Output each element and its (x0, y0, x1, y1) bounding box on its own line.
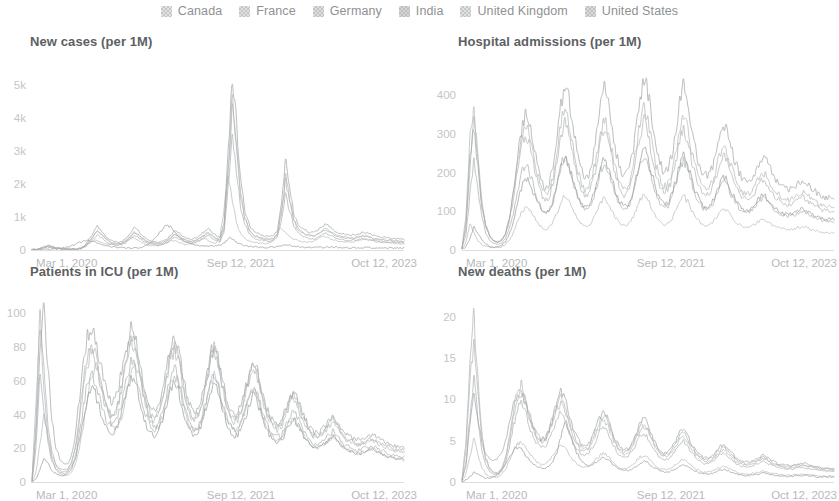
y-axis-tick-label: 20 (443, 311, 456, 323)
y-axis-tick-label: 0 (20, 476, 26, 488)
series-line-france (32, 104, 404, 250)
series-line-united-states (32, 84, 404, 249)
legend-item-label: India (416, 4, 444, 18)
legend-item-label: Germany (330, 4, 382, 18)
panel-title: Patients in ICU (per 1M) (30, 264, 178, 279)
x-axis-tick-label: Sep 12, 2021 (207, 489, 275, 501)
panel-new-deaths: New deaths (per 1M)05101520Mar 1, 2020Se… (420, 258, 839, 487)
legend-item-label: France (256, 4, 296, 18)
panel-hospital-admissions: Hospital admissions (per 1M)010020030040… (420, 28, 839, 256)
legend-item-canada[interactable]: Canada (161, 4, 222, 18)
x-axis-tick-label: Oct 12, 2023 (771, 489, 837, 501)
legend-swatch-icon (239, 6, 250, 17)
plot-area (32, 300, 404, 482)
panel-title: New cases (per 1M) (30, 34, 152, 49)
y-axis-tick-label: 10 (443, 393, 456, 405)
y-axis-tick-label: 1k (14, 211, 26, 223)
y-axis-tick-label: 20 (13, 442, 26, 454)
x-axis-tick-label: Mar 1, 2020 (36, 489, 97, 501)
series-line-united-kingdom (32, 95, 404, 250)
legend-item-label: Canada (178, 4, 222, 18)
y-axis-tick-label: 200 (437, 167, 456, 179)
y-axis-tick-label: 5k (14, 79, 26, 91)
series-line-united-states (462, 388, 834, 480)
legend-swatch-icon (161, 6, 172, 17)
y-axis-tick-label: 0 (450, 476, 456, 488)
y-axis-tick-label: 5 (450, 435, 456, 447)
y-axis-tick-label: 100 (7, 307, 26, 319)
series-lines (462, 300, 834, 482)
series-line-france (462, 308, 834, 480)
panel-patients-in-icu: Patients in ICU (per 1M)020406080100Mar … (0, 258, 419, 487)
legend-swatch-icon (399, 6, 410, 17)
legend-item-germany[interactable]: Germany (313, 4, 382, 18)
series-lines (462, 68, 834, 250)
series-line-germany (32, 357, 404, 482)
panel-new-cases: New cases (per 1M)01k2k3k4k5kMar 1, 2020… (0, 28, 419, 256)
y-axis-tick-label: 400 (437, 89, 456, 101)
x-axis-tick-label: Mar 1, 2020 (466, 489, 527, 501)
y-axis-tick-label: 80 (13, 341, 26, 353)
x-axis-line (462, 250, 834, 251)
legend-item-united_states[interactable]: United States (585, 4, 678, 18)
plot-area (462, 68, 834, 250)
y-axis-tick-label: 0 (20, 244, 26, 256)
legend-swatch-icon (460, 6, 471, 17)
panel-title: New deaths (per 1M) (458, 264, 586, 279)
y-axis-tick-label: 3k (14, 145, 26, 157)
x-axis-line (32, 482, 404, 483)
series-line-india (32, 375, 404, 482)
y-axis-tick-label: 100 (437, 205, 456, 217)
legend-item-india[interactable]: India (399, 4, 444, 18)
series-line-canada (32, 362, 404, 482)
panel-title: Hospital admissions (per 1M) (458, 34, 641, 49)
legend-item-label: United Kingdom (477, 4, 567, 18)
y-axis-tick-label: 300 (437, 128, 456, 140)
y-axis-tick-label: 4k (14, 112, 26, 124)
x-axis-line (462, 482, 834, 483)
series-line-united-kingdom (462, 102, 834, 247)
y-axis-tick-label: 15 (443, 352, 456, 364)
plot-area (462, 300, 834, 482)
legend-swatch-icon (313, 6, 324, 17)
x-axis-tick-label: Sep 12, 2021 (637, 489, 705, 501)
legend-item-france[interactable]: France (239, 4, 296, 18)
x-axis-tick-label: Oct 12, 2023 (351, 489, 417, 501)
y-axis-tick-label: 60 (13, 375, 26, 387)
legend-item-united_kingdom[interactable]: United Kingdom (460, 4, 567, 18)
chart-legend: CanadaFranceGermanyIndiaUnited KingdomUn… (0, 0, 839, 22)
plot-area (32, 68, 404, 250)
series-lines (32, 300, 404, 482)
series-line-germany (32, 134, 404, 250)
series-lines (32, 68, 404, 250)
legend-item-label: United States (602, 4, 678, 18)
y-axis-tick-label: 0 (450, 244, 456, 256)
legend-swatch-icon (585, 6, 596, 17)
x-axis-line (32, 250, 404, 251)
y-axis-tick-label: 40 (13, 409, 26, 421)
y-axis-tick-label: 2k (14, 178, 26, 190)
series-line-canada (462, 438, 834, 482)
